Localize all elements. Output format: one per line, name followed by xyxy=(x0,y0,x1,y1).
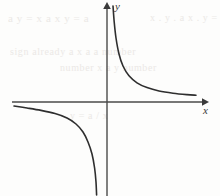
arrow-up-icon xyxy=(103,2,111,9)
y-axis-label: y xyxy=(115,0,120,12)
x-axis-label: x xyxy=(203,104,208,116)
curves-group xyxy=(14,6,196,195)
plot-area xyxy=(0,0,220,196)
hyperbola-branch-quadrant-1 xyxy=(113,6,196,95)
hyperbola-figure: a y = x a x y = a x . y . a x . y = a si… xyxy=(0,0,220,196)
hyperbola-branch-quadrant-3 xyxy=(14,106,97,195)
axes-group xyxy=(12,2,209,196)
